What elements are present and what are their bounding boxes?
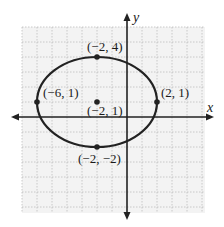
point-top-vertex (94, 54, 100, 60)
point-bottom-vertex (94, 144, 100, 150)
point-right-vertex (154, 99, 160, 105)
ellipse-diagram: x y (−2, 4) (−6, 1) (2, 1) (−2, −2) (−2,… (0, 0, 224, 227)
y-axis-label: y (131, 10, 140, 25)
label-center: (−2, 1) (87, 103, 123, 118)
x-axis-label: x (206, 100, 214, 115)
y-axis-up-arrow-icon (124, 13, 131, 21)
label-left-vertex: (−6, 1) (43, 85, 79, 100)
x-axis-left-arrow-icon (11, 114, 19, 121)
label-top-vertex: (−2, 4) (87, 39, 123, 54)
label-bottom-vertex: (−2, −2) (78, 151, 121, 166)
point-left-vertex (34, 99, 40, 105)
label-right-vertex: (2, 1) (161, 85, 189, 100)
grid-background (22, 27, 205, 213)
y-axis-down-arrow-icon (124, 212, 131, 220)
